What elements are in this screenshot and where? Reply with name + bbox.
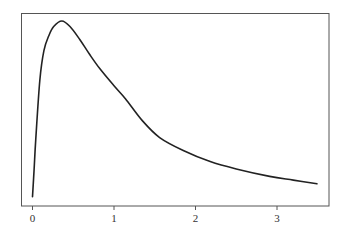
x-tick-label: 0 bbox=[30, 212, 36, 224]
x-tick-label: 2 bbox=[193, 212, 199, 224]
x-axis-ticks bbox=[33, 206, 278, 210]
chart: 0123 bbox=[0, 0, 348, 236]
x-tick-label: 1 bbox=[111, 212, 117, 224]
density-curve bbox=[33, 21, 317, 197]
x-axis-tick-labels: 0123 bbox=[30, 212, 281, 224]
plot-frame bbox=[22, 14, 330, 207]
x-tick-label: 3 bbox=[274, 212, 280, 224]
